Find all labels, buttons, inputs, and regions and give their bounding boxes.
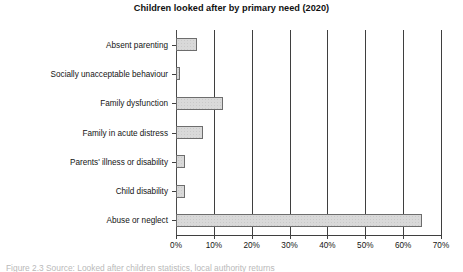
y-tick-mark (172, 191, 176, 192)
chart-title: Children looked after by primary need (2… (0, 3, 463, 13)
bar[interactable] (176, 126, 203, 139)
bar-row (176, 89, 441, 118)
category-label: Socially unacceptable behaviour (51, 69, 168, 78)
x-tick-mark (403, 235, 404, 239)
x-tick-mark (365, 235, 366, 239)
bar[interactable] (176, 155, 185, 168)
y-tick-mark (172, 74, 176, 75)
bar-row (176, 206, 441, 235)
x-tick-mark (290, 235, 291, 239)
plot-area (176, 30, 441, 235)
y-tick-mark (172, 162, 176, 163)
bar[interactable] (176, 185, 185, 198)
x-tick-label: 30% (270, 241, 310, 250)
bar[interactable] (176, 38, 197, 51)
x-tick-label: 40% (307, 241, 347, 250)
category-label: Parents' illness or disability (70, 157, 168, 166)
y-tick-mark (172, 133, 176, 134)
x-tick-label: 10% (194, 241, 234, 250)
x-tick-label: 0% (156, 241, 196, 250)
x-tick-label: 60% (383, 241, 423, 250)
bar[interactable] (176, 214, 422, 227)
x-tick-mark (176, 235, 177, 239)
category-label: Absent parenting (106, 40, 168, 49)
y-tick-mark (172, 220, 176, 221)
x-axis-line (176, 235, 442, 236)
x-tick-mark (214, 235, 215, 239)
bar-row (176, 176, 441, 205)
x-tick-label: 70% (421, 241, 461, 250)
y-tick-mark (172, 45, 176, 46)
x-tick-mark (441, 235, 442, 239)
category-label: Abuse or neglect (107, 216, 168, 225)
figure-container: Children looked after by primary need (2… (0, 0, 463, 272)
bar[interactable] (176, 97, 223, 110)
bar-row (176, 147, 441, 176)
x-tick-label: 50% (345, 241, 385, 250)
gridline-70 (441, 30, 442, 235)
category-label: Family dysfunction (100, 99, 168, 108)
bar-row (176, 59, 441, 88)
x-tick-mark (327, 235, 328, 239)
bar[interactable] (176, 67, 180, 80)
category-label: Child disability (116, 187, 168, 196)
x-tick-mark (252, 235, 253, 239)
bar-row (176, 30, 441, 59)
x-tick-label: 20% (232, 241, 272, 250)
y-tick-mark (172, 103, 176, 104)
bar-row (176, 118, 441, 147)
category-label: Family in acute distress (82, 128, 168, 137)
figure-caption: Figure 2.3 Source: Looked after children… (6, 263, 275, 272)
